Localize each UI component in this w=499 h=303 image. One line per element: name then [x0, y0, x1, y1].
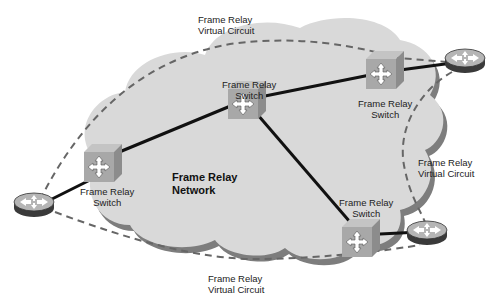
switch-top-right [366, 51, 404, 89]
vc-right-label: Frame Relay Virtual Circuit [418, 157, 474, 179]
switch-bottom-right-label: Frame Relay Switch [339, 197, 393, 219]
vc-bottom-label: Frame Relay Virtual Circuit [208, 273, 264, 295]
vc-top-label: Frame Relay Virtual Circuit [198, 14, 254, 36]
switch-top-right-label: Frame Relay Switch [358, 98, 412, 120]
router-left [14, 193, 54, 217]
switch-center-label: Frame Relay Switch [222, 79, 276, 101]
switch-left [84, 144, 122, 182]
switch-left-label: Frame Relay Switch [80, 186, 134, 208]
diagram-canvas [0, 0, 499, 303]
router-top-right [445, 49, 485, 73]
switch-bottom-right [342, 219, 380, 257]
router-bottom-right [407, 221, 447, 245]
network-label: Frame Relay Network [172, 171, 237, 197]
frame-relay-diagram: Frame Relay Virtual Circuit Frame Relay … [0, 0, 499, 303]
